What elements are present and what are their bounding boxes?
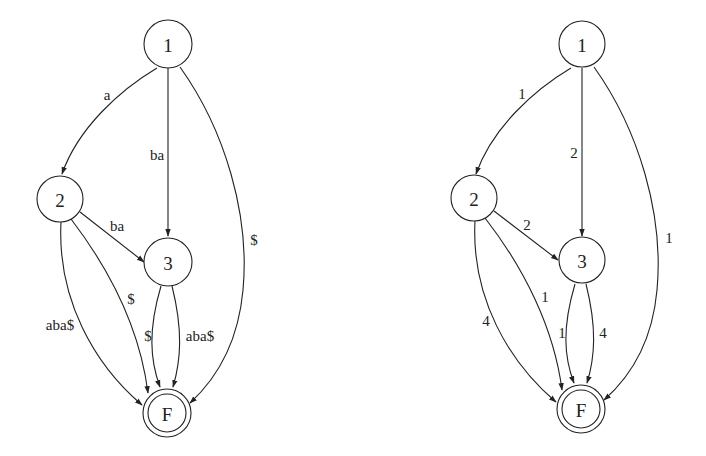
edge-label-2-F-1: 1 <box>541 289 549 305</box>
edge-3-F-4 <box>586 284 594 383</box>
svg-text:2: 2 <box>55 190 65 211</box>
edge-2-F-dollar <box>71 219 148 393</box>
node-F-final: F <box>557 385 605 433</box>
edge-label-3-F-4: 4 <box>599 325 607 341</box>
edge-label-2-3: ba <box>110 218 125 234</box>
edge-label-3-F-aba: aba$ <box>186 328 215 344</box>
node-3: 3 <box>559 237 605 283</box>
edge-label-2-3: 2 <box>523 217 531 233</box>
svg-text:1: 1 <box>163 35 173 56</box>
edge-1-2 <box>476 68 571 174</box>
svg-text:3: 3 <box>577 251 587 272</box>
left-diagram: a ba $ ba $ aba$ $ aba$ 1 2 3 F <box>37 20 258 437</box>
right-diagram: 1 2 1 2 1 4 1 4 1 2 3 F <box>451 21 673 433</box>
edge-label-3-F-1: 1 <box>558 325 566 341</box>
edge-2-F-4 <box>475 221 556 402</box>
diagram-canvas: a ba $ ba $ aba$ $ aba$ 1 2 3 F <box>0 0 706 456</box>
node-1: 1 <box>144 20 192 68</box>
edge-label-3-F-dollar: $ <box>144 328 152 344</box>
svg-text:F: F <box>576 400 587 421</box>
svg-text:1: 1 <box>577 35 587 56</box>
edge-3-F-dollar <box>152 286 161 387</box>
edge-3-F-1 <box>566 284 575 383</box>
edge-label-2-F-4: 4 <box>482 313 490 329</box>
edge-label-2-F-dollar: $ <box>127 291 135 307</box>
edge-2-F-aba <box>61 222 142 405</box>
node-1: 1 <box>559 21 605 67</box>
node-F-final: F <box>143 389 191 437</box>
edge-label-2-F-aba: aba$ <box>46 317 75 333</box>
edge-label-1-3: ba <box>150 147 165 163</box>
edge-label-1-3: 2 <box>570 145 578 161</box>
edge-3-F-aba <box>172 286 180 387</box>
edge-label-1-F: $ <box>250 232 258 248</box>
edge-2-F-1 <box>485 218 562 390</box>
node-2: 2 <box>37 176 83 222</box>
edge-label-1-2: 1 <box>518 86 526 102</box>
edge-1-F <box>594 67 658 400</box>
edge-1-F <box>180 67 244 403</box>
svg-text:F: F <box>162 404 173 425</box>
svg-text:3: 3 <box>163 253 173 274</box>
edge-label-1-2: a <box>104 87 111 103</box>
node-3: 3 <box>144 238 192 286</box>
edge-label-1-F: 1 <box>665 230 673 246</box>
edge-1-2 <box>62 68 157 174</box>
node-2: 2 <box>451 175 497 221</box>
svg-text:2: 2 <box>469 189 479 210</box>
